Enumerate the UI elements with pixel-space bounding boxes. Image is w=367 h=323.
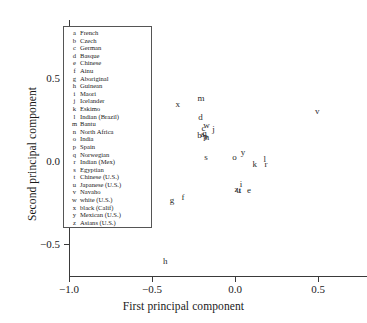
- legend-item-r: rIndian (Mex): [64, 158, 151, 166]
- legend-key: k: [69, 105, 80, 113]
- legend-item-x: xblack (Calif): [64, 204, 151, 212]
- legend-key: g: [69, 75, 80, 83]
- data-point-t: t: [239, 185, 242, 194]
- x-tick-label: 0.5: [311, 283, 325, 295]
- x-tick-mark: [235, 277, 236, 282]
- legend-label: Indian (Mex): [80, 158, 151, 166]
- legend-key: d: [69, 52, 80, 60]
- legend-label: Navaho: [80, 188, 151, 196]
- legend-item-w: wwhite (U.S.): [64, 196, 151, 204]
- legend-key: e: [69, 59, 80, 67]
- data-point-m: m: [197, 93, 204, 102]
- legend-item-y: yMexican (U.S.): [64, 211, 151, 219]
- legend-label: Bantu: [80, 120, 151, 128]
- legend-label: Basque: [80, 52, 151, 60]
- legend-key: w: [69, 196, 80, 204]
- legend-item-i: iMaori: [64, 90, 151, 98]
- y-axis-label: Second principal component: [26, 64, 38, 244]
- legend-label: Chinese (U.S.): [80, 173, 151, 181]
- pca-scatter-figure: −1.0−0.50.00.5 0.50.0−0.5 First principa…: [0, 0, 367, 323]
- data-point-n: n: [205, 132, 210, 141]
- legend-key: h: [69, 82, 80, 90]
- legend-box: aFrenchbCzechcGermandBasqueeChinesefAinu…: [63, 26, 152, 228]
- legend-key: b: [69, 37, 80, 45]
- legend-label: Aboriginal: [80, 75, 151, 83]
- legend-key: q: [69, 151, 80, 159]
- data-point-k: k: [253, 159, 258, 168]
- legend-label: white (U.S.): [80, 196, 151, 204]
- legend-key: a: [69, 29, 80, 37]
- legend-item-m: mBantu: [64, 120, 151, 128]
- legend-key: o: [69, 135, 80, 143]
- legend-key: l: [69, 113, 80, 121]
- data-point-y: y: [241, 147, 246, 156]
- data-point-r: r: [264, 159, 267, 168]
- legend-item-q: qNorwegian: [64, 151, 151, 159]
- y-tick-label: −0.5: [40, 238, 60, 250]
- data-point-e: e: [247, 185, 251, 194]
- legend-label: Ainu: [80, 67, 151, 75]
- data-point-f: f: [182, 193, 185, 202]
- legend-label: Czech: [80, 37, 151, 45]
- legend-label: Asians (U.S.): [80, 219, 151, 227]
- legend-label: Maori: [80, 90, 151, 98]
- x-tick-label: −1.0: [59, 283, 79, 295]
- x-axis-label: First principal component: [0, 300, 367, 312]
- legend-key: f: [69, 67, 80, 75]
- legend-key: j: [69, 97, 80, 105]
- legend-label: India: [80, 135, 151, 143]
- data-point-o: o: [232, 153, 237, 162]
- legend-item-c: cGerman: [64, 44, 151, 52]
- x-tick-mark: [69, 277, 70, 282]
- legend-item-z: zAsians (U.S.): [64, 219, 151, 227]
- legend-item-a: aFrench: [64, 29, 151, 37]
- legend-key: n: [69, 128, 80, 136]
- x-tick-mark: [318, 277, 319, 282]
- legend-label: Eskimo: [80, 105, 151, 113]
- legend-item-d: dBasque: [64, 52, 151, 60]
- legend-label: Chinese: [80, 59, 151, 67]
- x-tick-label: −0.5: [142, 283, 162, 295]
- legend-key: p: [69, 143, 80, 151]
- data-point-h: h: [163, 257, 168, 266]
- legend-label: Mexican (U.S.): [80, 211, 151, 219]
- legend-key: u: [69, 181, 80, 189]
- x-tick-mark: [152, 277, 153, 282]
- data-point-d: d: [198, 113, 203, 122]
- data-point-x: x: [175, 100, 180, 109]
- legend-label: Guinean: [80, 82, 151, 90]
- legend-key: r: [69, 158, 80, 166]
- legend-item-b: bCzech: [64, 37, 151, 45]
- legend-key: m: [69, 120, 80, 128]
- legend-item-l: lIndian (Brazil): [64, 113, 151, 121]
- legend-item-t: tChinese (U.S.): [64, 173, 151, 181]
- legend-label: North Africa: [80, 128, 151, 136]
- legend-label: Egyptian: [80, 166, 151, 174]
- data-point-v: v: [315, 107, 320, 116]
- legend-key: y: [69, 211, 80, 219]
- data-point-j: j: [212, 125, 215, 134]
- legend-key: i: [69, 90, 80, 98]
- legend-key: s: [69, 166, 80, 174]
- data-point-g: g: [170, 195, 175, 204]
- x-axis-line: [69, 276, 367, 277]
- legend-item-e: eChinese: [64, 59, 151, 67]
- legend-key: t: [69, 173, 80, 181]
- legend-item-h: hGuinean: [64, 82, 151, 90]
- legend-label: Norwegian: [80, 151, 151, 159]
- data-point-s: s: [204, 153, 208, 162]
- legend-item-j: jIcelander: [64, 97, 151, 105]
- legend-item-k: kEskimo: [64, 105, 151, 113]
- legend-label: Icelander: [80, 97, 151, 105]
- legend-label: Japanese (U.S.): [80, 181, 151, 189]
- x-tick-label: 0.0: [228, 283, 242, 295]
- legend-key: z: [69, 219, 80, 227]
- legend-key: x: [69, 204, 80, 212]
- legend-item-f: fAinu: [64, 67, 151, 75]
- legend-item-s: sEgyptian: [64, 166, 151, 174]
- legend-item-n: nNorth Africa: [64, 128, 151, 136]
- y-tick-mark: [64, 244, 69, 245]
- legend-item-g: gAboriginal: [64, 75, 151, 83]
- legend-key: v: [69, 188, 80, 196]
- legend-label: Indian (Brazil): [80, 113, 151, 121]
